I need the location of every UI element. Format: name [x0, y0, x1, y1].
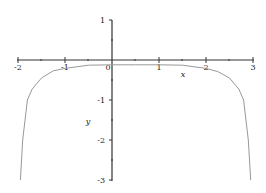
x-tick-label: 3: [250, 63, 255, 72]
x-axis-label: x: [181, 70, 186, 79]
y-axis-label: y: [85, 117, 91, 126]
y-tick-label: -1: [97, 96, 105, 105]
function-plot: -2 -1 0 1 2 3 x 1 -1 -2 -3 y: [0, 0, 266, 193]
y-tick-label: -2: [97, 136, 105, 145]
x-tick-label: -1: [61, 63, 69, 72]
x-tick-label: -2: [14, 63, 22, 72]
function-curve: [20, 65, 250, 180]
y-tick-label: -3: [97, 176, 105, 185]
x-axis: [17, 57, 254, 63]
y-axis: [109, 20, 113, 181]
y-tick-label: 1: [100, 16, 105, 25]
x-tick-label: 2: [203, 63, 208, 72]
